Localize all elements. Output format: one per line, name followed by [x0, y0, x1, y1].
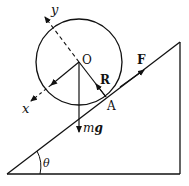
y-axis-label: y: [50, 2, 59, 17]
x-axis-dashed: [31, 85, 51, 101]
weight-g: g: [94, 121, 102, 135]
weight-m: m: [83, 121, 94, 135]
diagram-canvas: y x O R F A mg θ: [0, 0, 189, 186]
x-axis-label: x: [22, 101, 30, 116]
inclined-plane-diagram: y x O R F A mg θ: [0, 0, 189, 186]
angle-label: θ: [43, 157, 50, 170]
center-label: O: [82, 53, 92, 67]
x-axis-solid: [51, 62, 79, 85]
reaction-label: R: [100, 73, 111, 87]
y-axis: [45, 17, 79, 62]
incline-triangle: [7, 42, 180, 174]
friction-label: F: [137, 53, 146, 67]
angle-arc: [37, 151, 41, 174]
friction-arrow: [120, 70, 144, 87]
contact-point-label: A: [106, 99, 116, 113]
weight-label: mg: [83, 121, 103, 135]
